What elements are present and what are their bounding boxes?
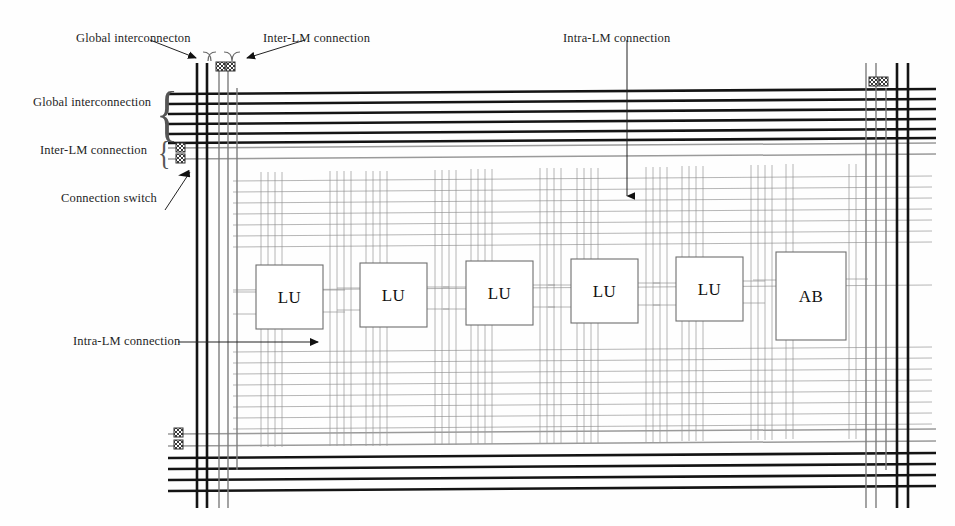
- callout-global-interconnection-left: Global interconnection: [33, 95, 151, 110]
- callout-global-interconnection-top: Global interconnecton: [76, 31, 191, 46]
- interconnect-layer: LULULULULUAB: [0, 0, 955, 526]
- callout-intra-lm-connection-top: Intra-LM connection: [563, 31, 670, 46]
- block-label: LU: [382, 286, 406, 305]
- callout-connection-switch: Connection switch: [61, 191, 157, 206]
- logic-block-lu-3[interactable]: LU: [571, 259, 638, 323]
- logic-block-lu-2[interactable]: LU: [466, 261, 533, 325]
- block-label: LU: [593, 282, 617, 301]
- block-label: LU: [488, 284, 512, 303]
- logic-block-lu-1[interactable]: LU: [360, 263, 427, 327]
- block-label: AB: [799, 287, 824, 306]
- top-bracket-pair: [203, 52, 240, 61]
- callout-inter-lm-connection-top: Inter-LM connection: [263, 31, 370, 46]
- inter-lm-vertical-bus-left: [219, 63, 237, 508]
- block-label: LU: [698, 280, 722, 299]
- inter-lm-brace: {: [158, 136, 170, 170]
- callout-intra-lm-connection-left: Intra-LM connection: [73, 334, 180, 349]
- switch-bottom-left: [174, 428, 183, 449]
- logic-block-lu-0[interactable]: LU: [256, 265, 323, 329]
- logic-block-lu-4[interactable]: LU: [676, 257, 743, 321]
- global-vertical-bus-left: [197, 63, 207, 508]
- figure-canvas: LULULULULUAB { { Global interconnecton I…: [0, 0, 955, 526]
- switch-top-left: [216, 62, 235, 71]
- block-label: LU: [278, 288, 302, 307]
- switch-top-right: [869, 77, 888, 86]
- logic-blocks-layer: LULULULULUAB: [256, 252, 846, 340]
- callout-inter-lm-connection-left: Inter-LM connection: [40, 143, 147, 158]
- logic-block-ab-5[interactable]: AB: [776, 252, 846, 340]
